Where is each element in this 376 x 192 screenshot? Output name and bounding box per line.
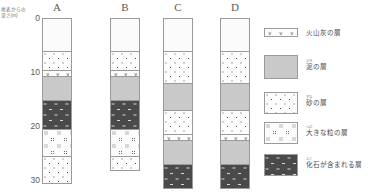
layer-mud [110,76,140,100]
layer-sand [163,51,193,83]
legend-item-ash: ∨∨∨火山灰の層 [258,28,376,56]
legend-swatch-sand [264,92,298,114]
legend-label-sand: 砂の層 [306,99,376,107]
layer-blank [110,18,140,51]
layer-blank [163,18,193,51]
borehole-column-a: ∨∨∨ [42,0,72,192]
depth-axis: 0102030 [20,0,40,192]
layer-mud [163,140,193,164]
legend-item-fossil: ふく化石が含まれる層 [258,154,376,182]
layer-blank [42,18,72,51]
depth-tick-30: 30 [24,175,40,185]
legend-swatch-ash: ∨∨∨ [264,28,298,37]
layer-sand [42,156,72,184]
ash-glyph-icon: ∨ [279,30,283,36]
legend: ∨∨∨火山灰の層どろ泥の層すな砂の層つぶ大きな粒の層ふく化石が含まれる層 [258,0,376,192]
layer-blank [220,18,250,51]
depth-axis-caption-line2: 深さ(m) [1,13,37,19]
layer-sand [220,51,250,83]
ash-glyph-icon: ∨ [268,30,272,36]
borehole-column-d: ∨∨∨ [220,0,250,192]
legend-label-fossil: 化石が含まれる層 [306,161,376,169]
layer-mud [163,83,193,110]
legend-item-coarse: つぶ大きな粒の層 [258,122,376,150]
legend-item-mud: どろ泥の層 [258,55,376,83]
legend-swatch-fossil [264,154,298,176]
legend-swatch-coarse [264,122,298,144]
layer-mud [220,140,250,164]
stratigraphic-column-diagram: 0102030 地表からの 深さ(m) A B C D ∨∨∨ ∨∨∨ ∨∨∨ … [0,0,376,192]
depth-tick-10: 10 [24,67,40,77]
legend-swatch-mud [264,55,298,79]
layer-fossil [110,100,140,128]
layer-fossil [220,164,250,188]
ash-marker-row: ∨∨∨ [265,29,297,36]
borehole-column-b: ∨∨∨ [110,0,140,192]
layer-mud [42,76,72,100]
layer-sand [42,51,72,70]
layer-sand [110,156,140,172]
depth-axis-caption: 地表からの 深さ(m) [1,7,37,18]
layer-coarse [42,129,72,156]
layer-fossil [42,100,72,128]
legend-item-sand: すな砂の層 [258,92,376,120]
legend-label-mud: 泥の層 [306,63,376,71]
layer-sand [110,51,140,70]
borehole-column-c: ∨∨∨ [163,0,193,192]
legend-label-ash: 火山灰の層 [306,29,376,37]
legend-label-coarse: 大きな粒の層 [306,129,376,137]
depth-tick-20: 20 [24,121,40,131]
layer-sand [220,110,250,134]
layer-fossil [163,164,193,188]
layer-mud [220,83,250,110]
ash-glyph-icon: ∨ [290,30,294,36]
layer-coarse [110,129,140,156]
layer-sand [163,110,193,134]
